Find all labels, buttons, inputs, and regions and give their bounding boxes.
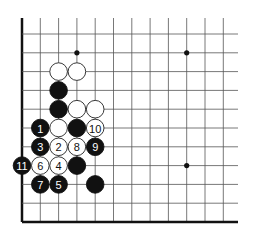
- white-stone-icon: [50, 63, 68, 81]
- black-stone-icon: [50, 82, 68, 100]
- black-stone-icon: [50, 100, 68, 118]
- move-number-label: 8: [74, 141, 80, 153]
- white-stone-icon: [68, 63, 86, 81]
- black-stone-icon: [68, 119, 86, 137]
- move-number-label: 6: [37, 160, 43, 172]
- black-stone-move-11: 11: [13, 157, 31, 175]
- move-number-label: 3: [37, 141, 43, 153]
- star-point-icon: [184, 163, 189, 168]
- black-stone-move-1: 1: [32, 119, 50, 137]
- black-stone-move-5: 5: [50, 176, 68, 194]
- white-stone: [68, 100, 86, 118]
- black-stone: [50, 82, 68, 100]
- white-stone-icon: [68, 100, 86, 118]
- star-point-icon: [74, 50, 79, 55]
- white-stone-icon: [50, 119, 68, 137]
- white-stone-move-4: 4: [50, 157, 68, 175]
- move-number-label: 11: [16, 160, 27, 172]
- black-stone-move-9: 9: [86, 138, 104, 156]
- go-board-diagram: 1103289116475: [0, 0, 255, 234]
- move-number-label: 2: [56, 141, 62, 153]
- black-stone-move-3: 3: [32, 138, 50, 156]
- move-number-label: 7: [37, 179, 43, 191]
- white-stone-move-6: 6: [32, 157, 50, 175]
- move-number-label: 4: [56, 160, 62, 172]
- white-stone-icon: [86, 100, 104, 118]
- white-stone: [50, 119, 68, 137]
- white-stone-move-8: 8: [68, 138, 86, 156]
- black-stone-icon: [86, 176, 104, 194]
- black-stone-icon: [68, 157, 86, 175]
- white-stone: [68, 63, 86, 81]
- black-stone: [68, 157, 86, 175]
- move-number-label: 5: [56, 179, 62, 191]
- black-stone: [50, 100, 68, 118]
- white-stone-move-2: 2: [50, 138, 68, 156]
- white-stone-move-10: 10: [86, 119, 104, 137]
- star-point-icon: [184, 50, 189, 55]
- black-stone: [86, 176, 104, 194]
- white-stone: [50, 63, 68, 81]
- black-stone-move-7: 7: [32, 176, 50, 194]
- move-number-label: 10: [89, 123, 101, 135]
- move-number-label: 1: [37, 123, 43, 135]
- white-stone: [86, 100, 104, 118]
- black-stone: [68, 119, 86, 137]
- move-number-label: 9: [92, 141, 98, 153]
